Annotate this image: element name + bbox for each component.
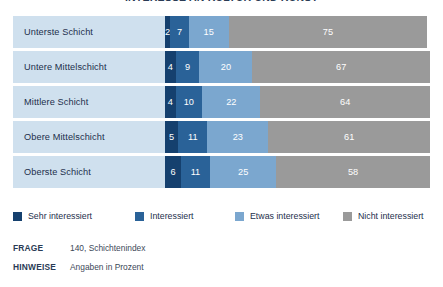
bar-segment-value: 20 [221,62,231,72]
legend-item: Sehr interessiert [13,209,92,223]
bar-segment: 25 [210,156,276,188]
bar-segment: 7 [170,16,189,48]
bar-segment-value: 4 [168,97,173,107]
chart-row: Untere Mittelschicht492067 [0,51,443,83]
chart-row-label: Mittlere Schicht [13,86,165,118]
footnote-frage: FRAGE 140, Schichtenindex [13,243,430,262]
bar-segment-value: 9 [185,62,190,72]
footnote-frage-value: 140, Schichtenindex [70,243,145,253]
bar-segment-value: 67 [336,62,346,72]
chart-row-bar: 6112558 [165,156,430,188]
bar-segment: 9 [176,51,200,83]
chart-legend: Sehr interessiertInteressiertEtwas inter… [13,209,430,223]
legend-label: Etwas interessiert [250,211,319,221]
bar-segment: 20 [199,51,252,83]
bar-segment: 4 [165,86,176,118]
bar-segment-value: 11 [188,132,198,142]
footnote-frage-key: FRAGE [13,243,70,253]
chart-row-bar: 492067 [165,51,430,83]
bar-segment: 15 [189,16,229,48]
chart-title: INTERESSE AN KULTUR UND KUNST [0,0,443,3]
bar-segment-value: 4 [168,62,173,72]
bar-segment-value: 10 [184,97,194,107]
legend-swatch-icon [235,212,244,221]
bar-segment: 22 [202,86,260,118]
legend-label: Interessiert [150,211,194,221]
bar-segment: 61 [268,121,430,153]
chart-row-bar: 271575 [165,16,430,48]
bar-segment: 64 [260,86,430,118]
bar-segment-value: 7 [177,27,182,37]
bar-segment-value: 6 [170,167,175,177]
bar-segment: 11 [178,121,207,153]
chart-row: Unterste Schicht271575 [0,16,443,48]
bar-segment: 58 [276,156,430,188]
chart-row: Obere Mittelschicht5112361 [0,121,443,153]
bar-segment: 23 [207,121,268,153]
legend-label: Sehr interessiert [28,211,92,221]
legend-swatch-icon [135,212,144,221]
bar-segment: 5 [165,121,178,153]
bar-segment-value: 61 [344,132,354,142]
bar-segment: 4 [165,51,176,83]
legend-swatch-icon [13,212,22,221]
bar-segment-value: 64 [340,97,350,107]
legend-item: Etwas interessiert [235,209,319,223]
legend-label: Nicht interessiert [358,211,424,221]
chart-row-label: Obere Mittelschicht [13,121,165,153]
bar-segment: 75 [229,16,428,48]
bar-segment-value: 75 [323,27,333,37]
legend-item: Nicht interessiert [343,209,424,223]
chart-title-strip: INTERESSE AN KULTUR UND KUNST [0,0,443,11]
chart-row: Mittlere Schicht4102264 [0,86,443,118]
stacked-bar-chart: Unterste Schicht271575Untere Mittelschic… [0,16,443,191]
legend-item: Interessiert [135,209,194,223]
chart-row-label: Unterste Schicht [13,16,165,48]
legend-swatch-icon [343,212,352,221]
bar-segment-value: 15 [204,27,214,37]
bar-segment-value: 22 [226,97,236,107]
bar-segment: 67 [252,51,430,83]
bar-segment: 10 [176,86,203,118]
bar-segment-value: 5 [169,132,174,142]
footnote-hinweise-value: Angaben in Prozent [70,262,144,272]
chart-row-bar: 5112361 [165,121,430,153]
bar-segment: 11 [181,156,210,188]
footnote-hinweise-key: HINWEISE [13,262,70,272]
chart-footnotes: FRAGE 140, Schichtenindex HINWEISE Angab… [13,243,430,281]
bar-segment: 6 [165,156,181,188]
footnote-hinweise: HINWEISE Angaben in Prozent [13,262,430,281]
bar-segment-value: 58 [348,167,358,177]
bar-segment-value: 11 [191,167,201,177]
bar-segment-value: 23 [233,132,243,142]
chart-row-label: Oberste Schicht [13,156,165,188]
chart-row: Oberste Schicht6112558 [0,156,443,188]
bar-segment-value: 25 [238,167,248,177]
chart-row-bar: 4102264 [165,86,430,118]
chart-row-label: Untere Mittelschicht [13,51,165,83]
